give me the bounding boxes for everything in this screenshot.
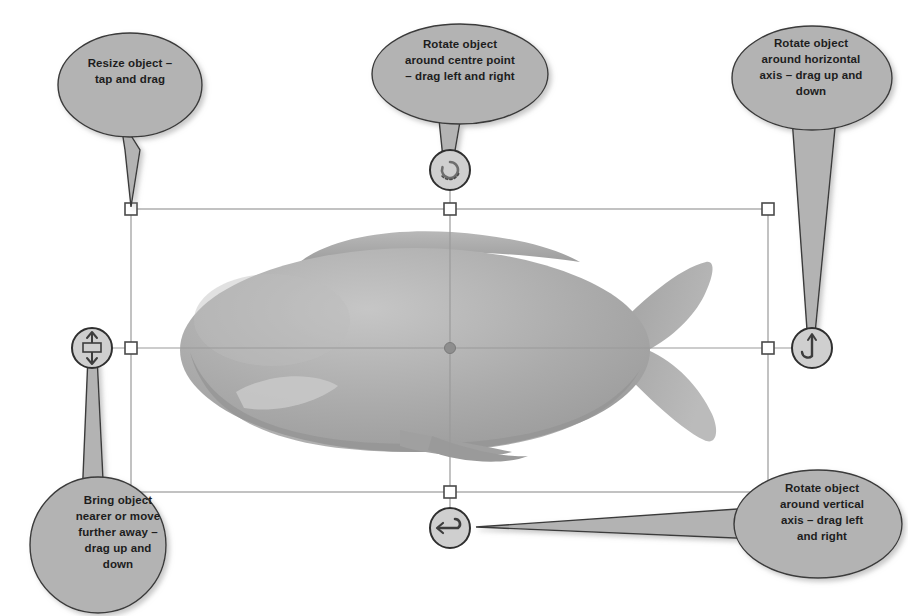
rotate-horizontal-handle[interactable] <box>792 328 832 368</box>
fish-head-highlight <box>194 274 350 366</box>
callout-resize-bubble <box>58 33 202 137</box>
edge-handle-top-center[interactable] <box>444 203 456 215</box>
object-center-point[interactable] <box>445 343 456 354</box>
edge-handle-left-center[interactable] <box>125 342 137 354</box>
callout-horizontal-bubble <box>732 26 892 130</box>
edge-handle-bottom-center[interactable] <box>444 486 456 498</box>
callout-near-bubble <box>30 477 166 613</box>
rotate-centre-handle[interactable] <box>430 150 470 190</box>
callout-vertical-bubble <box>734 470 902 578</box>
rotate-vertical-handle[interactable] <box>430 508 470 548</box>
depth-handle[interactable] <box>72 328 112 368</box>
callout-centre-bubble <box>372 24 548 124</box>
diagram-svg <box>0 0 908 616</box>
edge-handle-right-center[interactable] <box>762 342 774 354</box>
callout-horizontal-shape <box>792 118 836 344</box>
diagram-canvas: Resize object – tap and drag Rotate obje… <box>0 0 908 616</box>
corner-handle-top-right[interactable] <box>762 203 774 215</box>
